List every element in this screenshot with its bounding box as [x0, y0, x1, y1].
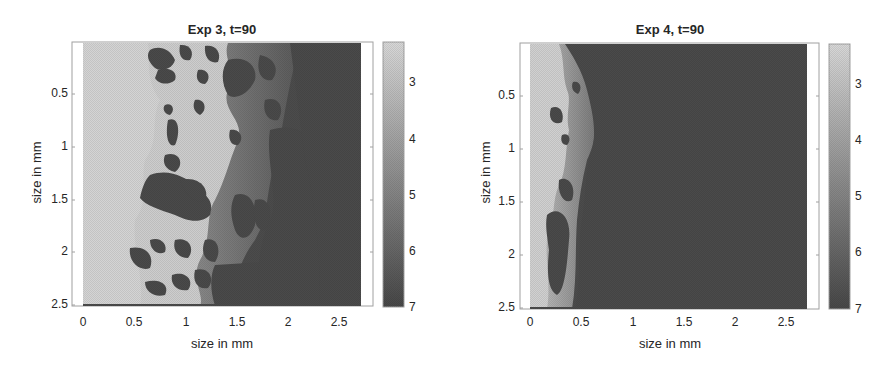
y-tick: 2.5 [485, 300, 515, 314]
y-tick: 1 [38, 139, 68, 153]
y-tick: 1.5 [485, 194, 515, 208]
x-tick: 1 [171, 315, 201, 329]
colorbar-tick: 7 [409, 300, 429, 314]
colorbar-tick: 4 [409, 132, 429, 146]
x-tick: 1.5 [222, 315, 252, 329]
x-tick: 2 [273, 315, 303, 329]
y-tick: 1.5 [38, 192, 68, 206]
chart-title: Exp 4, t=90 [520, 22, 820, 37]
colorbar-tick: 4 [855, 133, 875, 147]
colorbar-tick: 7 [855, 302, 875, 316]
y-tick: 1 [485, 141, 515, 155]
colorbar-tick: 3 [855, 77, 875, 91]
chart-title: Exp 3, t=90 [72, 22, 372, 37]
x-tick: 0.5 [566, 315, 596, 329]
panel-exp3: Exp 3, t=90 size in mm size in mm 0 0.5 … [0, 0, 447, 375]
x-tick: 0.5 [119, 315, 149, 329]
y-axis-label: size in mm [29, 113, 44, 233]
colorbar-tick: 6 [409, 244, 429, 258]
y-axis-label: size in mm [478, 113, 493, 233]
colorbar-tick: 6 [855, 245, 875, 259]
x-tick: 0 [68, 315, 98, 329]
x-tick: 1.5 [669, 315, 699, 329]
colorbar-tick: 5 [409, 188, 429, 202]
y-tick: 2.5 [38, 297, 68, 311]
x-tick: 1 [618, 315, 648, 329]
y-tick: 0.5 [485, 88, 515, 102]
y-tick: 2 [38, 244, 68, 258]
colorbar-tick: 5 [855, 189, 875, 203]
x-tick: 2 [720, 315, 750, 329]
x-axis-label: size in mm [520, 336, 820, 351]
x-tick: 0 [515, 315, 545, 329]
y-tick: 0.5 [38, 86, 68, 100]
y-tick: 2 [485, 247, 515, 261]
x-axis-label: size in mm [72, 336, 372, 351]
colorbar-tick: 3 [409, 75, 429, 89]
panel-exp4: Exp 4, t=90 size in mm size in mm 0 0.5 … [447, 0, 894, 375]
x-tick: 2.5 [324, 315, 354, 329]
x-tick: 2.5 [771, 315, 801, 329]
